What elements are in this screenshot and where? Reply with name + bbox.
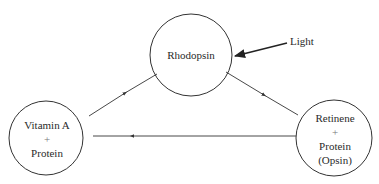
node-vitamin-a-plus: + <box>24 132 69 146</box>
edge-rhodopsin-to-retinene <box>226 72 298 115</box>
edge-vitamin-a-to-rhodopsin <box>89 74 157 116</box>
node-vitamin-a: Vitamin A + Protein <box>24 118 69 160</box>
node-vitamin-a-line-1: Vitamin A <box>24 118 69 132</box>
light-arrow <box>235 43 287 56</box>
light-label: Light <box>290 35 314 47</box>
node-retinene-line-3: Protein <box>315 139 354 153</box>
node-vitamin-a-line-3: Protein <box>24 146 69 160</box>
node-retinene-line-4: (Opsin) <box>315 153 354 167</box>
rhodopsin-cycle-diagram: Rhodopsin Vitamin A + Protein Retinene +… <box>0 0 379 184</box>
node-retinene-plus: + <box>315 125 354 139</box>
node-retinene: Retinene + Protein (Opsin) <box>315 111 354 167</box>
node-rhodopsin-label: Rhodopsin <box>167 48 215 62</box>
node-retinene-line-1: Retinene <box>315 111 354 125</box>
node-rhodopsin: Rhodopsin <box>167 48 215 62</box>
